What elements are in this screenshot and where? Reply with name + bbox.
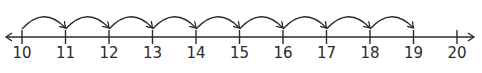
number-line-graphic [0,0,482,73]
hop-arrow-icon [370,17,414,29]
hop-arrow-icon [327,17,371,29]
tick-label: 12 [94,44,124,62]
hop-arrow-icon [22,17,66,29]
hop-arrow-icon [66,17,110,29]
hop-arcs [22,17,414,29]
tick-label: 16 [268,44,298,62]
hop-arrow-icon [153,17,197,29]
tick-label: 15 [225,44,255,62]
hop-arrow-icon [240,17,284,29]
tick-label: 18 [355,44,385,62]
tick-label: 10 [7,44,37,62]
tick-label: 20 [442,44,472,62]
tick-label: 17 [312,44,342,62]
tick-label: 19 [399,44,429,62]
tick-label: 11 [51,44,81,62]
hop-arrow-icon [283,17,327,29]
hop-arrow-icon [196,17,240,29]
tick-label: 13 [138,44,168,62]
hop-arrow-icon [109,17,153,29]
tick-label: 14 [181,44,211,62]
number-line-diagram: 1011121314151617181920 [0,0,482,73]
